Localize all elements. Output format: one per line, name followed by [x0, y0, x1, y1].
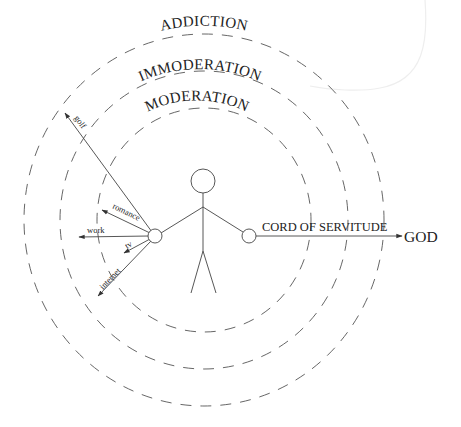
pull-label-golf: golf — [72, 113, 88, 130]
left-hand — [148, 229, 162, 243]
pull-label-romance: romance — [111, 201, 142, 223]
god-label: GOD — [404, 228, 438, 245]
figure-right-arm — [203, 207, 243, 232]
ring-label-addiction: ADDICTION — [159, 13, 250, 34]
right-hand — [242, 229, 256, 243]
figure-left-arm — [161, 207, 203, 233]
pull-label-work: work — [87, 225, 105, 235]
figure-head — [191, 169, 215, 193]
diagram-canvas: ADDICTION IMMODERATION MODERATION golf r… — [0, 0, 461, 427]
stick-figure — [161, 169, 243, 293]
figure-left-leg — [191, 251, 203, 293]
pull-label-tv: tv — [123, 238, 134, 250]
pull-label-internet: internet — [97, 265, 123, 291]
pull-arrows — [65, 113, 152, 296]
paper-edge-artifact — [310, 0, 426, 90]
cord-label: CORD OF SERVITUDE — [262, 220, 388, 234]
work-arrow — [79, 236, 149, 237]
ring-label-moderation: MODERATION — [142, 87, 251, 114]
figure-right-leg — [203, 251, 216, 293]
